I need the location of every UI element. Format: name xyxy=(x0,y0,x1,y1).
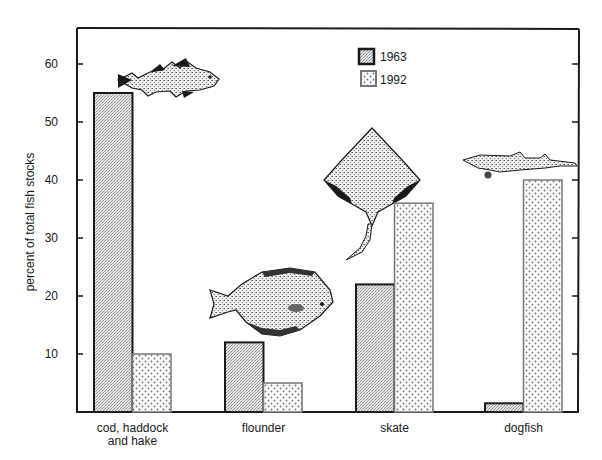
y-axis-label: percent of total fish stocks xyxy=(23,153,37,292)
category-label: cod, haddock xyxy=(97,421,169,435)
x-axis-category-labels: cod, haddockand hakeflounderskatedogfish xyxy=(97,421,543,448)
legend-label-1963: 1963 xyxy=(380,50,407,64)
legend-item-1992: 1992 xyxy=(361,71,407,87)
flounder-illustration xyxy=(210,268,333,336)
category-label: and hake xyxy=(108,434,158,448)
legend-item-1963: 1963 xyxy=(359,49,407,64)
y-axis-right-ticks xyxy=(572,64,578,354)
category-label: skate xyxy=(380,421,409,435)
bar-chart: 102030405060 percent of total fish stock… xyxy=(0,0,602,460)
y-tick-label: 10 xyxy=(45,347,59,361)
bar-1963-2 xyxy=(356,284,395,412)
y-tick-label: 60 xyxy=(45,57,59,71)
category-label: flounder xyxy=(242,421,285,435)
bar-series xyxy=(94,93,562,412)
category-label: dogfish xyxy=(504,421,543,435)
legend-swatch-1963 xyxy=(359,49,374,64)
y-tick-label: 50 xyxy=(45,115,59,129)
bar-1992-2 xyxy=(395,203,434,412)
bar-1992-0 xyxy=(133,354,172,412)
legend-label-1992: 1992 xyxy=(380,73,407,87)
legend: 1963 1992 xyxy=(359,49,407,87)
y-tick-label: 30 xyxy=(45,231,59,245)
bar-1963-1 xyxy=(225,342,264,412)
bar-1963-3 xyxy=(485,403,524,412)
y-tick-label: 20 xyxy=(45,289,59,303)
dogfish-illustration xyxy=(463,152,577,179)
bar-1992-3 xyxy=(524,180,563,412)
bar-1963-0 xyxy=(94,93,133,412)
y-tick-label: 40 xyxy=(45,173,59,187)
legend-swatch-1992 xyxy=(361,71,376,86)
bar-1992-1 xyxy=(264,383,303,412)
